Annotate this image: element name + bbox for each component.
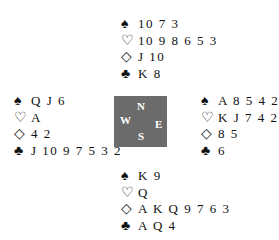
compass-south: S xyxy=(138,130,144,142)
compass-east: E xyxy=(155,118,162,130)
diamond-icon: ◇ xyxy=(14,126,31,143)
west-clubs: ♣J 10 9 7 5 3 2 xyxy=(14,143,122,160)
north-hearts-cards: 10 9 8 6 5 3 xyxy=(138,33,218,50)
heart-icon: ♡ xyxy=(14,110,31,127)
compass-table: N W E S xyxy=(114,96,167,147)
east-spades-cards: A 8 5 4 2 xyxy=(218,93,279,110)
heart-icon: ♡ xyxy=(121,33,138,50)
west-diamonds-cards: 4 2 xyxy=(31,126,52,143)
south-spades: ♠K 9 xyxy=(121,168,230,185)
south-diamonds-cards: A K Q 9 7 6 3 xyxy=(138,201,230,218)
club-icon: ♣ xyxy=(201,143,218,160)
south-clubs: ♣A Q 4 xyxy=(121,218,230,235)
north-diamonds-cards: J 10 xyxy=(138,49,165,66)
east-diamonds-cards: 8 5 xyxy=(218,126,239,143)
north-hand: ♠10 7 3 ♡10 9 8 6 5 3 ◇J 10 ♣K 8 xyxy=(121,16,218,82)
club-icon: ♣ xyxy=(121,66,138,83)
south-clubs-cards: A Q 4 xyxy=(138,218,177,235)
diamond-icon: ◇ xyxy=(121,201,138,218)
north-diamonds: ◇J 10 xyxy=(121,49,218,66)
east-hand: ♠A 8 5 4 2 ♡K J 7 4 2 ◇8 5 ♣6 xyxy=(201,93,279,159)
east-spades: ♠A 8 5 4 2 xyxy=(201,93,279,110)
spade-icon: ♠ xyxy=(14,93,31,110)
south-hand: ♠K 9 ♡Q ◇A K Q 9 7 6 3 ♣A Q 4 xyxy=(121,168,230,234)
west-spades-cards: Q J 6 xyxy=(31,93,66,110)
spade-icon: ♠ xyxy=(121,168,138,185)
west-spades: ♠Q J 6 xyxy=(14,93,122,110)
east-hearts: ♡K J 7 4 2 xyxy=(201,110,279,127)
north-hearts: ♡10 9 8 6 5 3 xyxy=(121,33,218,50)
south-hearts: ♡Q xyxy=(121,185,230,202)
south-diamonds: ◇A K Q 9 7 6 3 xyxy=(121,201,230,218)
south-hearts-cards: Q xyxy=(138,185,149,202)
west-hearts: ♡A xyxy=(14,110,122,127)
north-clubs: ♣K 8 xyxy=(121,66,218,83)
north-spades: ♠10 7 3 xyxy=(121,16,218,33)
club-icon: ♣ xyxy=(14,143,31,160)
heart-icon: ♡ xyxy=(201,110,218,127)
west-hearts-cards: A xyxy=(31,110,42,127)
club-icon: ♣ xyxy=(121,218,138,235)
north-spades-cards: 10 7 3 xyxy=(138,16,180,33)
south-spades-cards: K 9 xyxy=(138,168,162,185)
east-diamonds: ◇8 5 xyxy=(201,126,279,143)
east-hearts-cards: K J 7 4 2 xyxy=(218,110,278,127)
spade-icon: ♠ xyxy=(121,16,138,33)
compass-west: W xyxy=(120,114,131,126)
spade-icon: ♠ xyxy=(201,93,218,110)
heart-icon: ♡ xyxy=(121,185,138,202)
west-hand: ♠Q J 6 ♡A ◇4 2 ♣J 10 9 7 5 3 2 xyxy=(14,93,122,159)
west-clubs-cards: J 10 9 7 5 3 2 xyxy=(31,143,122,160)
diamond-icon: ◇ xyxy=(121,49,138,66)
east-clubs: ♣6 xyxy=(201,143,279,160)
west-diamonds: ◇4 2 xyxy=(14,126,122,143)
diamond-icon: ◇ xyxy=(201,126,218,143)
east-clubs-cards: 6 xyxy=(218,143,226,160)
north-clubs-cards: K 8 xyxy=(138,66,162,83)
compass-north: N xyxy=(137,100,145,112)
